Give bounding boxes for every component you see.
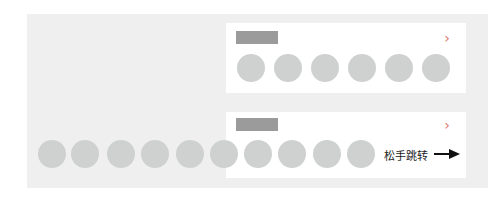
arrow-right-icon — [433, 148, 461, 160]
title-placeholder — [236, 31, 278, 44]
list-item-circle[interactable] — [274, 54, 302, 82]
list-item-circle[interactable] — [237, 54, 265, 82]
list-item-circle[interactable] — [176, 140, 204, 168]
title-placeholder — [236, 118, 278, 131]
list-item-circle[interactable] — [311, 54, 339, 82]
list-item-circle[interactable] — [244, 140, 272, 168]
list-item-circle[interactable] — [107, 140, 135, 168]
chevron-right-icon[interactable]: › — [442, 31, 452, 45]
list-item-circle[interactable] — [278, 140, 306, 168]
list-item-circle[interactable] — [347, 140, 375, 168]
list-item-circle[interactable] — [313, 140, 341, 168]
list-item-circle[interactable] — [385, 54, 413, 82]
list-item-circle[interactable] — [71, 140, 99, 168]
list-item-circle[interactable] — [348, 54, 376, 82]
list-item-circle[interactable] — [141, 140, 169, 168]
list-item-circle[interactable] — [422, 54, 450, 82]
release-to-jump-label: 松手跳转 — [384, 147, 428, 163]
list-item-circle[interactable] — [210, 140, 238, 168]
list-item-circle[interactable] — [38, 140, 66, 168]
chevron-right-icon[interactable]: › — [442, 118, 452, 132]
